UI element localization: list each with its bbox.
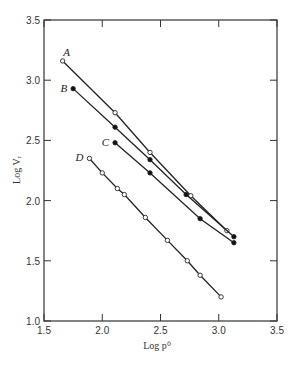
data-point xyxy=(87,156,91,160)
series-a: A xyxy=(60,46,229,233)
y-axis-title: Log Vᵣ xyxy=(11,155,22,184)
y-tick-label: 1.5 xyxy=(26,256,40,267)
chart: 1.52.02.53.03.51.01.52.02.53.03.5 ABCD L… xyxy=(0,0,294,367)
data-point xyxy=(198,273,202,277)
data-point xyxy=(148,157,152,161)
data-point xyxy=(143,215,147,219)
series-label-c: C xyxy=(102,136,110,148)
series-label-b: B xyxy=(60,82,67,94)
series-b: B xyxy=(60,82,236,239)
x-tick-label: 2.0 xyxy=(95,325,109,336)
data-point xyxy=(232,241,236,245)
x-tick-label: 2.5 xyxy=(154,325,168,336)
data-point xyxy=(60,59,64,63)
data-point xyxy=(198,216,202,220)
series-label-d: D xyxy=(74,151,83,163)
data-point xyxy=(232,235,236,239)
data-point xyxy=(184,192,188,196)
series-c: C xyxy=(102,136,236,245)
data-point xyxy=(113,125,117,129)
data-point xyxy=(100,171,104,175)
x-axis-title: Log p⁰ xyxy=(143,340,171,351)
data-point xyxy=(185,259,189,263)
data-point xyxy=(71,86,75,90)
y-tick-label: 3.0 xyxy=(26,75,40,86)
data-point xyxy=(115,186,119,190)
y-tick-label: 3.5 xyxy=(26,15,40,26)
series-label-a: A xyxy=(62,46,70,58)
data-point xyxy=(219,295,223,299)
data-point xyxy=(122,192,126,196)
y-tick-label: 1.0 xyxy=(26,316,40,327)
y-tick-label: 2.0 xyxy=(26,196,40,207)
data-point xyxy=(148,171,152,175)
data-point xyxy=(113,111,117,115)
data-point xyxy=(148,150,152,154)
series-lines: ABCD xyxy=(60,46,236,299)
y-tick-label: 2.5 xyxy=(26,135,40,146)
x-tick-label: 3.5 xyxy=(270,325,284,336)
x-tick-label: 3.0 xyxy=(212,325,226,336)
data-point xyxy=(113,141,117,145)
data-point xyxy=(165,238,169,242)
